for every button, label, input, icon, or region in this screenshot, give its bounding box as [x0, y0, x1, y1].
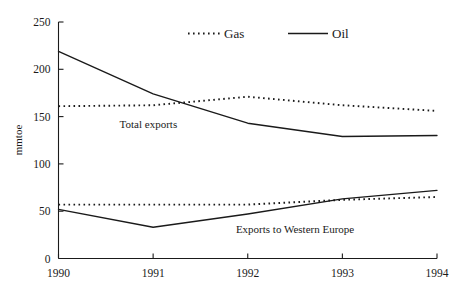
series-line-total-exports-gas	[59, 97, 438, 111]
y-axis-title-label: mmtoe	[12, 125, 24, 156]
series-annotation-label: Exports to Western Europe	[236, 223, 354, 235]
x-axis-tick-label: 1993	[331, 267, 354, 279]
y-axis-tick-label: 200	[33, 63, 51, 75]
y-axis-tick-label: 150	[33, 111, 51, 123]
series-line-exports-to-western-europe-oil	[59, 190, 438, 227]
chart-container: 250200150100500 19901991199219931994 Tot…	[0, 0, 454, 291]
y-axis-tick-label: 0	[45, 253, 51, 265]
x-axis-tick-label: 1991	[142, 267, 165, 279]
y-axis-tick-label: 50	[39, 205, 51, 217]
series-lines	[59, 51, 438, 227]
legend-label-gas: Gas	[224, 26, 244, 41]
y-axis-tick-label: 100	[33, 158, 51, 170]
y-axis-tick-label: 250	[33, 16, 51, 28]
legend-label-oil: Oil	[332, 26, 349, 41]
series-line-total-exports-oil	[59, 51, 438, 136]
series-annotations: Total exportsExports to Western Europe	[120, 118, 355, 235]
series-annotation-label: Total exports	[120, 118, 178, 130]
chart-legend: GasOil	[188, 26, 349, 41]
line-chart: 250200150100500 19901991199219931994 Tot…	[0, 0, 454, 291]
x-axis: 19901991199219931994	[47, 254, 449, 279]
y-axis: 250200150100500	[33, 16, 63, 265]
y-axis-title: mmtoe	[12, 125, 24, 156]
x-axis-tick-label: 1994	[426, 267, 449, 279]
x-axis-tick-label: 1990	[47, 267, 70, 279]
series-line-exports-to-western-europe-gas	[59, 197, 438, 205]
x-axis-tick-label: 1992	[236, 267, 259, 279]
